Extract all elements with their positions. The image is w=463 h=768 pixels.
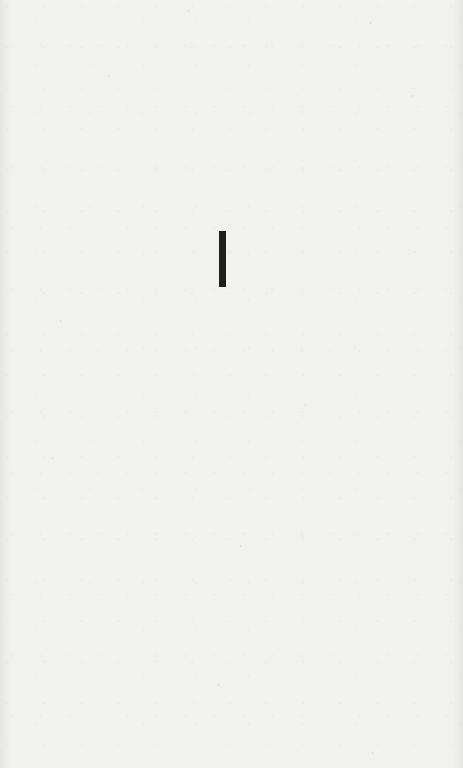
paper-speck — [60, 320, 62, 322]
paper-speck — [372, 752, 374, 754]
paper-speck — [240, 545, 242, 547]
paper-speck — [188, 10, 190, 12]
paper-speck — [370, 22, 372, 24]
title-glyph: I — [219, 231, 226, 287]
paper-speck — [218, 684, 220, 686]
paper-speck — [108, 75, 110, 77]
paper-speck — [412, 95, 414, 97]
paper-speck — [305, 404, 307, 406]
paper-speck — [52, 457, 54, 459]
document-page: I — [0, 0, 463, 768]
